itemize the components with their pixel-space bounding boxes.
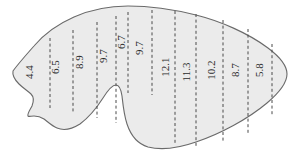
strip-value-label: 4.4	[24, 65, 35, 79]
outline-path	[13, 6, 287, 149]
shape-svg	[0, 0, 295, 161]
strip-value-label: 6.5	[50, 60, 61, 74]
strip-value-label: 5.8	[254, 63, 265, 77]
strip-value-label: 6.7	[116, 35, 127, 49]
strip-value-label: 12.1	[160, 57, 171, 76]
strip-value-label: 8.7	[230, 63, 241, 77]
strip-value-label: 9.7	[134, 41, 145, 55]
strip-value-label: 11.3	[181, 63, 192, 82]
strip-value-label: 10.2	[206, 60, 217, 79]
cross-section-diagram: 4.46.58.99.76.79.712.111.310.28.75.8	[0, 0, 295, 161]
strip-value-label: 9.7	[98, 49, 109, 63]
strip-value-label: 8.9	[74, 55, 85, 69]
